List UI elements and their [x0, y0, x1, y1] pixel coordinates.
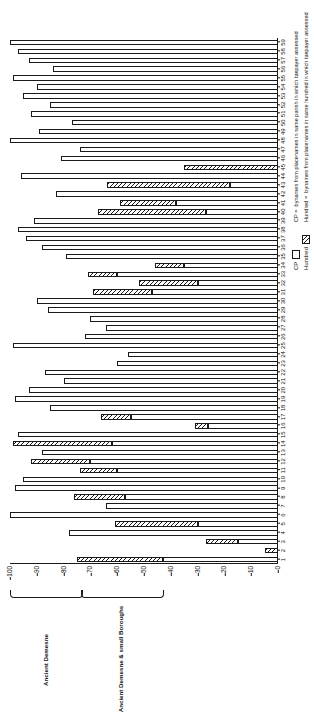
bar-segment-cp [66, 254, 278, 260]
bar-segment-hundred [98, 209, 205, 215]
bar-segment-hundred [120, 200, 176, 206]
bar-7 [106, 503, 278, 509]
category-tick-mark [277, 460, 280, 461]
bar-21 [64, 379, 278, 385]
value-tick-mark [278, 570, 279, 573]
category-tick-mark [277, 514, 280, 515]
bar-segment-cp [10, 40, 278, 46]
bar-45 [184, 165, 278, 171]
category-tick-4: 4 [280, 531, 286, 534]
bar-13 [42, 450, 278, 456]
legend-swatch-hundred [302, 235, 310, 244]
category-tick-11: 11 [280, 467, 286, 473]
bar-segment-cp [117, 361, 278, 367]
legend-description-1: Hundred =bynames from placenames in same… [302, 12, 310, 222]
category-tick-mark [277, 211, 280, 212]
category-tick-mark [277, 380, 280, 381]
category-tick-8: 8 [280, 495, 286, 498]
value-tick-10: 10 [248, 566, 254, 573]
category-tick-34: 34 [280, 262, 286, 269]
category-tick-24: 24 [280, 351, 286, 358]
group-bracket-ancient-demesne-small-boroughs: Ancient Demesne & small Boroughs [81, 590, 161, 624]
value-tick-20: 20 [221, 566, 227, 573]
legend-keys: CPHundred [292, 235, 310, 270]
category-tick-mark [277, 50, 280, 51]
category-tick-mark [277, 68, 280, 69]
bar-segment-cp [18, 432, 278, 438]
bar-3 [206, 539, 278, 545]
bar-segment-hundred [101, 414, 130, 420]
category-tick-52: 52 [280, 102, 286, 109]
category-tick-9: 9 [280, 487, 286, 490]
bar-33 [88, 272, 278, 278]
category-tick-19: 19 [280, 396, 286, 403]
bar-37 [26, 236, 278, 242]
category-tick-mark [277, 532, 280, 533]
bar-segment-cp [106, 325, 278, 331]
legend-swatch-cp [292, 250, 300, 259]
category-tick-38: 38 [280, 226, 286, 233]
category-tick-45: 45 [280, 164, 286, 171]
category-tick-3: 3 [280, 540, 286, 543]
category-tick-6: 6 [280, 513, 286, 516]
bar-segment-hundred [88, 272, 117, 278]
category-tick-mark [277, 487, 280, 488]
category-tick-18: 18 [280, 405, 286, 412]
category-tick-mark [277, 282, 280, 283]
category-tick-31: 31 [280, 289, 286, 296]
bar-segment-cp [50, 405, 278, 411]
bar-segment-hundred [77, 557, 163, 563]
group-label-ancient-demesne-small-boroughs: Ancient Demesne & small Boroughs [118, 599, 125, 716]
value-tick-mark [251, 573, 252, 576]
category-tick-50: 50 [280, 119, 286, 126]
bar-1 [77, 557, 278, 563]
category-tick-44: 44 [280, 173, 286, 180]
bar-segment-hundred [31, 459, 90, 465]
bar-48 [10, 138, 278, 144]
category-tick-32: 32 [280, 280, 286, 287]
category-tick-mark [277, 86, 280, 87]
legend-item-cp: CP [292, 235, 300, 270]
bar-segment-cp [53, 66, 278, 72]
category-tick-mark [277, 398, 280, 399]
category-tick-mark [277, 362, 280, 363]
bar-segment-cp [163, 557, 278, 563]
bar-50 [72, 120, 278, 126]
value-tick-mark [37, 573, 38, 576]
category-tick-57: 57 [280, 57, 286, 64]
category-tick-17: 17 [280, 414, 286, 421]
category-tick-mark [277, 389, 280, 390]
bar-42 [56, 191, 278, 197]
value-tick-90: 90 [34, 566, 40, 573]
bar-segment-hundred [206, 539, 238, 545]
category-tick-mark [277, 157, 280, 158]
category-tick-mark [277, 175, 280, 176]
category-tick-12: 12 [280, 458, 286, 465]
bar-segment-cp [64, 379, 278, 385]
value-tick-70: 70 [87, 566, 93, 573]
bar-52 [50, 102, 278, 108]
category-tick-mark [277, 166, 280, 167]
category-tick-28: 28 [280, 316, 286, 323]
bar-segment-cp [117, 272, 278, 278]
bar-segment-cp [10, 512, 278, 518]
bar-32 [139, 280, 278, 286]
bar-segment-cp [13, 75, 278, 81]
category-tick-26: 26 [280, 333, 286, 340]
bar-31 [93, 289, 278, 295]
bar-segment-cp [10, 138, 278, 144]
category-tick-mark [277, 291, 280, 292]
bar-segment-cp [48, 307, 278, 313]
category-tick-49: 49 [280, 128, 286, 135]
category-tick-48: 48 [280, 137, 286, 144]
bar-9 [15, 485, 278, 491]
bar-29 [48, 307, 278, 313]
bar-segment-cp [34, 218, 278, 224]
bar-segment-hundred [107, 182, 230, 188]
category-tick-35: 35 [280, 253, 286, 260]
bar-segment-hundred [13, 441, 112, 447]
value-tick-mark [64, 573, 65, 576]
value-tick-80: 80 [60, 566, 66, 573]
